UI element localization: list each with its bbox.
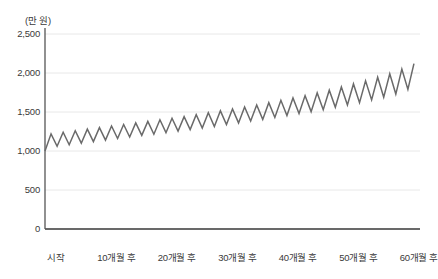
data-series-line xyxy=(45,64,414,151)
